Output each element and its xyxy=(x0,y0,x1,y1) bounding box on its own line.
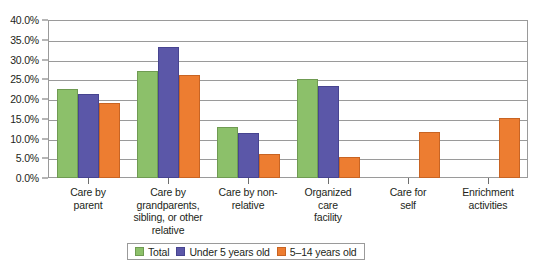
x-axis-label-line: activities xyxy=(448,199,528,212)
x-axis-label-line: care xyxy=(288,199,368,212)
x-axis-label-line: Care by xyxy=(48,186,128,199)
bar-total xyxy=(297,79,318,178)
x-axis-label-line: relative xyxy=(128,224,208,237)
bar-group xyxy=(48,20,128,178)
y-axis-tick-label: 35.0% xyxy=(10,34,39,46)
x-axis-label-line: Care for xyxy=(368,186,448,199)
bar-chart: 0.0%5.0%10.0%15.0%20.0%25.0%30.0%35.0%40… xyxy=(0,0,535,266)
x-axis-tick-label: Care by non-relative xyxy=(208,186,288,211)
bar-age514 xyxy=(179,75,200,178)
y-axis-tick-label: 10.0% xyxy=(10,133,39,145)
y-axis-tick-label: 25.0% xyxy=(10,73,39,85)
legend-item[interactable]: 5–14 years old xyxy=(277,246,357,258)
legend-label: 5–14 years old xyxy=(290,246,357,258)
bar-group xyxy=(208,20,288,178)
x-axis-label-line: Organized xyxy=(288,186,368,199)
bar-age514 xyxy=(259,154,280,178)
bar-under5 xyxy=(78,94,99,178)
x-axis-label-line: self xyxy=(368,199,448,212)
bar-group xyxy=(448,20,528,178)
x-axis-tick-mark xyxy=(488,178,489,184)
x-axis-label-line: Care by non- xyxy=(208,186,288,199)
bar-under5 xyxy=(318,86,339,178)
x-axis-tick-mark xyxy=(168,178,169,184)
x-axis-label-line: Enrichment xyxy=(448,186,528,199)
x-axis-tick-mark xyxy=(408,178,409,184)
bars-layer xyxy=(48,20,528,178)
x-axis-label-line: Care by xyxy=(128,186,208,199)
y-axis-tick-label: 5.0% xyxy=(16,152,39,164)
legend-swatch-icon xyxy=(176,247,185,256)
y-axis-tick-label: 40.0% xyxy=(10,14,39,26)
bar-group xyxy=(368,20,448,178)
bar-age514 xyxy=(339,157,360,178)
x-axis-label-line: parent xyxy=(48,199,128,212)
legend-item[interactable]: Total xyxy=(135,246,169,258)
x-axis-tick-label: Care bygrandparents,sibling, or otherrel… xyxy=(128,186,208,236)
x-axis-tick-mark xyxy=(248,178,249,184)
bar-age514 xyxy=(499,118,520,178)
bar-total xyxy=(137,71,158,178)
bar-under5 xyxy=(158,47,179,178)
legend-item[interactable]: Under 5 years old xyxy=(176,246,269,258)
y-axis-tick-label: 0.0% xyxy=(16,172,39,184)
x-axis-tick-label: Care byparent xyxy=(48,186,128,211)
x-axis-tick-mark xyxy=(328,178,329,184)
x-axis-tick-label: Organizedcarefacility xyxy=(288,186,368,224)
y-axis-tick-label: 30.0% xyxy=(10,54,39,66)
y-axis: 0.0%5.0%10.0%15.0%20.0%25.0%30.0%35.0%40… xyxy=(0,0,48,198)
bar-total xyxy=(217,127,238,178)
x-axis-label-line: grandparents, xyxy=(128,199,208,212)
x-axis: Care byparentCare bygrandparents,sibling… xyxy=(48,178,528,238)
legend-swatch-icon xyxy=(135,247,144,256)
legend-label: Under 5 years old xyxy=(189,246,269,258)
bar-age514 xyxy=(99,103,120,178)
x-axis-label-line: facility xyxy=(288,211,368,224)
y-axis-tick-label: 20.0% xyxy=(10,93,39,105)
bar-age514 xyxy=(419,132,440,178)
y-axis-tick-label: 15.0% xyxy=(10,113,39,125)
bar-total xyxy=(57,89,78,178)
legend-label: Total xyxy=(148,246,169,258)
bar-group xyxy=(288,20,368,178)
bar-group xyxy=(128,20,208,178)
chart-legend: TotalUnder 5 years old5–14 years old xyxy=(127,243,365,260)
x-axis-tick-label: Enrichmentactivities xyxy=(448,186,528,211)
bar-under5 xyxy=(238,133,259,178)
x-axis-label-line: relative xyxy=(208,199,288,212)
x-axis-tick-label: Care forself xyxy=(368,186,448,211)
legend-swatch-icon xyxy=(277,247,286,256)
x-axis-label-line: sibling, or other xyxy=(128,211,208,224)
x-axis-tick-mark xyxy=(88,178,89,184)
